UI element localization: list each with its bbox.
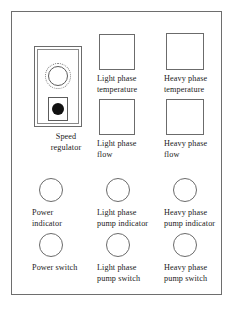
heavy-phase-flow-label: Heavy phase flow <box>164 139 236 160</box>
speed-regulator-label: Speed regulator <box>36 132 96 153</box>
light-phase-flow-label: Light phase flow <box>97 139 169 160</box>
speed-regulator-inner-bezel <box>37 49 79 124</box>
control-panel-diagram: Speed regulator Light phase temperature … <box>0 0 236 310</box>
light-phase-flow-display[interactable] <box>99 99 135 135</box>
power-switch-button[interactable] <box>39 233 63 257</box>
speed-regulator-module[interactable] <box>34 46 82 127</box>
light-phase-pump-indicator-label: Light phase pump indicator <box>97 208 169 229</box>
heavy-phase-pump-indicator-lamp[interactable] <box>173 178 197 202</box>
heavy-phase-temperature-display[interactable] <box>166 33 204 70</box>
indicator-lamp-housing <box>48 97 68 121</box>
light-phase-pump-switch-button[interactable] <box>106 233 130 257</box>
heavy-phase-pump-switch-button[interactable] <box>173 233 197 257</box>
heavy-phase-temperature-label: Heavy phase temperature <box>164 74 236 95</box>
power-indicator-lamp[interactable] <box>39 178 63 202</box>
light-phase-temperature-label: Light phase temperature <box>97 74 169 95</box>
rotary-dial-icon[interactable] <box>45 63 71 89</box>
heavy-phase-pump-switch-label: Heavy phase pump switch <box>164 263 236 284</box>
light-phase-pump-switch-label: Light phase pump switch <box>97 263 169 284</box>
power-indicator-label: Power indicator <box>32 208 100 229</box>
dial-knob-icon[interactable] <box>48 66 68 86</box>
light-phase-pump-indicator-lamp[interactable] <box>106 178 130 202</box>
indicator-lamp-icon <box>52 103 64 115</box>
heavy-phase-pump-indicator-label: Heavy phase pump indicator <box>164 208 236 229</box>
panel-enclosure-frame: Speed regulator Light phase temperature … <box>11 11 222 295</box>
heavy-phase-flow-display[interactable] <box>166 99 204 135</box>
light-phase-temperature-display[interactable] <box>99 34 135 70</box>
